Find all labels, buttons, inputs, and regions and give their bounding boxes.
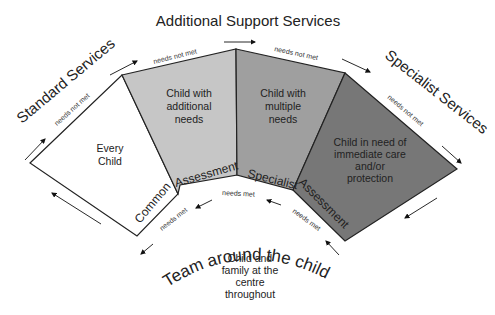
flow-label-met-2: needs met [222, 189, 255, 198]
text-centre: Child and family at the centre throughou… [222, 252, 279, 300]
arrow-return-right [405, 198, 437, 218]
svg-text:throughout: throughout [225, 288, 275, 300]
svg-text:family at the: family at the [222, 264, 279, 276]
svg-text:Every: Every [97, 142, 125, 154]
svg-text:needs: needs [175, 113, 204, 125]
svg-text:Child in need of: Child in need of [334, 136, 407, 148]
svg-text:and/or: and/or [355, 160, 385, 172]
svg-text:Child with: Child with [260, 87, 306, 99]
svg-text:multiple: multiple [265, 100, 301, 112]
svg-text:Child with: Child with [166, 87, 212, 99]
arrow-return-common [141, 244, 153, 254]
arrow-to-specialist [342, 59, 370, 72]
diagram-canvas: Additional Support Services Standard Ser… [0, 0, 495, 315]
text-every-child: Every Child [97, 142, 125, 167]
svg-text:protection: protection [347, 172, 393, 184]
svg-text:Child and: Child and [228, 252, 273, 264]
arrow-return-multiple [267, 200, 281, 205]
svg-text:additional: additional [167, 100, 212, 112]
svg-text:needs: needs [269, 113, 298, 125]
svg-text:Child: Child [98, 155, 122, 167]
label-additional-services: Additional Support Services [156, 12, 340, 29]
arrow-return-additional [196, 200, 212, 208]
arrow-return-specialist [326, 241, 339, 255]
svg-text:centre: centre [235, 276, 264, 288]
svg-text:immediate care: immediate care [334, 148, 406, 160]
